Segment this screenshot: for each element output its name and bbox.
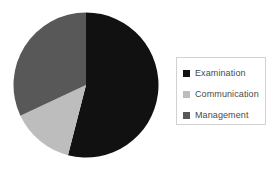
- legend-label-management: Management: [195, 110, 249, 120]
- pie-chart-plot-area: [13, 12, 159, 158]
- pie-chart-figure: Examination Communication Management: [0, 0, 279, 171]
- legend-item-management[interactable]: Management: [183, 106, 265, 124]
- legend-swatch-communication: [183, 91, 190, 98]
- chart-legend: Examination Communication Management: [176, 57, 266, 125]
- legend-item-examination[interactable]: Examination: [183, 64, 265, 82]
- legend-swatch-management: [183, 112, 190, 119]
- pie-chart-svg: [13, 12, 159, 158]
- legend-label-communication: Communication: [195, 89, 259, 99]
- legend-swatch-examination: [183, 70, 190, 77]
- legend-item-communication[interactable]: Communication: [183, 85, 265, 103]
- pie-slice-group: [13, 13, 158, 158]
- legend-label-examination: Examination: [195, 68, 246, 78]
